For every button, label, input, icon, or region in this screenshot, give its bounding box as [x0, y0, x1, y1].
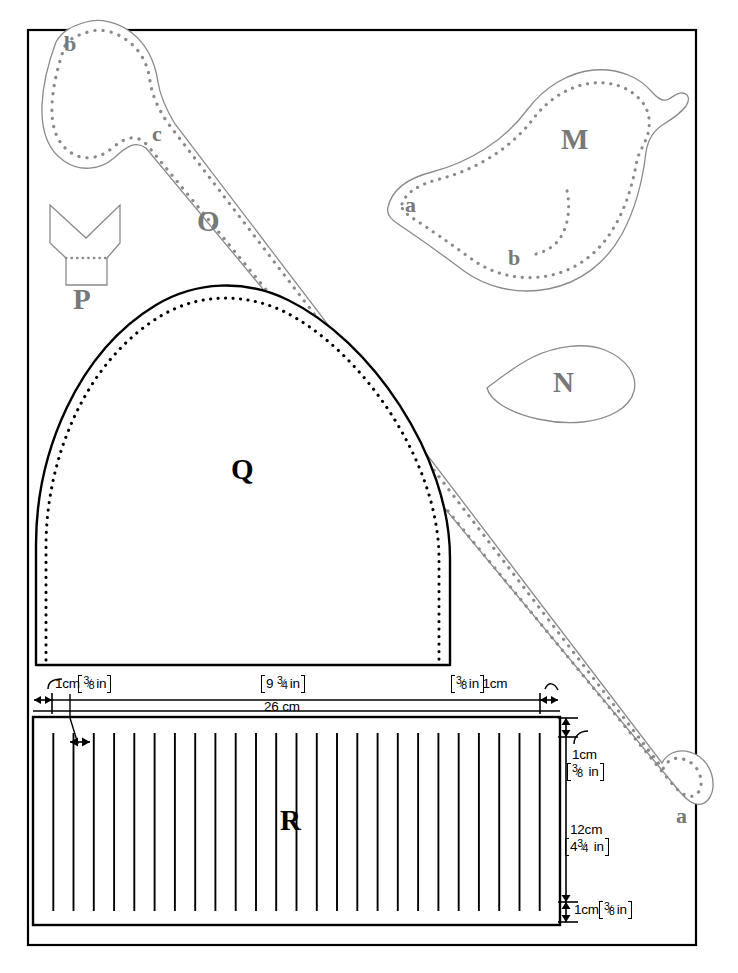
dim-top-left-den: 8 [89, 679, 95, 691]
piece-M-mark-b: b [508, 247, 520, 269]
piece-O-mark-c: c [152, 123, 162, 145]
dim-top-right-den: 8 [461, 679, 467, 691]
dim-right-bottom-den: 8 [609, 905, 615, 917]
dim-top-left-unit: in [96, 676, 106, 691]
dim-right-bottom-seam: 1cm3⁄8in [574, 903, 627, 917]
dim-top-left-seam: 1cm 3⁄8in [55, 677, 106, 691]
piece-M-mark-a: a [405, 194, 416, 216]
dim-top-right-cm: 1cm [483, 676, 508, 691]
piece-letter-R: R [280, 806, 301, 835]
dim-right-bottom-cm: 1cm [574, 902, 599, 917]
dim-right-top-den: 8 [577, 767, 583, 779]
dim-right-height-cm: 12cm [570, 823, 604, 837]
piece-letter-M: M [561, 125, 588, 154]
dim-right-height-unit: in [594, 839, 604, 854]
dim-top-middle: 9 3⁄4in [266, 677, 300, 691]
pattern-drawing [0, 0, 738, 973]
piece-letter-N: N [553, 368, 574, 397]
piece-O-mark-a: a [676, 805, 687, 827]
pattern-sheet: M a b N O b c a P Q R 1cm 3⁄8in 9 3⁄4in … [0, 0, 738, 973]
dim-top-left-cm: 1cm [55, 676, 80, 691]
dim-right-top-seam: 1cm 3⁄8 in [572, 748, 599, 779]
dim-right-height-den: 4 [583, 842, 589, 854]
piece-O-mark-b: b [64, 33, 76, 55]
piece-M-outline [387, 70, 688, 291]
dim-right-top-unit: in [588, 764, 598, 779]
dim-top-middle-unit: in [290, 676, 300, 691]
piece-letter-O: O [197, 207, 220, 236]
right-seam-leader [545, 684, 558, 690]
dim-right-bottom-unit: in [617, 902, 627, 917]
dim-top-right-unit: in [469, 676, 479, 691]
piece-letter-P: P [73, 285, 91, 314]
dim-top-middle-den: 4 [282, 679, 288, 691]
piece-letter-Q: Q [231, 455, 254, 484]
dim-top-right-seam: 3⁄8in 1cm [456, 677, 507, 691]
dim-right-top-cm: 1cm [572, 748, 599, 762]
right-top-seam-leader [574, 731, 588, 744]
piece-P-outline [50, 205, 120, 285]
piece-R-group [33, 679, 588, 925]
dim-right-height: 12cm 43⁄4 in [570, 823, 604, 854]
dim-overall-width: 26 cm [264, 700, 300, 714]
